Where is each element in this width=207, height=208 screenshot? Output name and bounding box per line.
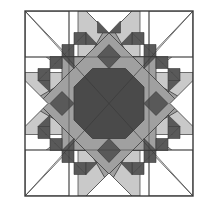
block-interior — [25, 11, 193, 196]
figure-canvas — [0, 0, 207, 208]
quilt-block-diagram — [0, 0, 207, 208]
